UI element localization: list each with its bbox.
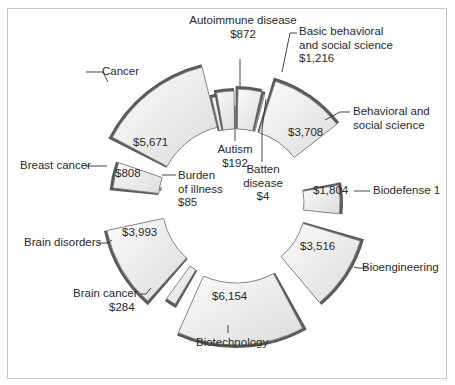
label-batten-line1: Batten (240, 163, 286, 177)
value-biotechnology: $6,154 (212, 290, 247, 302)
segment-behavioral (257, 78, 339, 158)
value-biodefense: $1,804 (313, 184, 348, 196)
label-breast-cancer: Breast cancer (20, 159, 91, 173)
segment-bioengineering (281, 222, 364, 305)
label-biodefense: Biodefense 1 (373, 184, 440, 198)
label-autoimmune-text: Autoimmune disease (188, 14, 298, 28)
label-basic-behavioral-line2: and social science (299, 39, 393, 53)
label-brain-cancer-text: Brain cancer (73, 287, 138, 301)
value-basic-behavioral: $1,216 (299, 52, 393, 66)
label-autoimmune: Autoimmune disease $872 (188, 14, 298, 41)
segment-cancer (108, 64, 217, 168)
label-cancer: Cancer (102, 65, 139, 79)
label-batten-line2: disease (240, 177, 286, 191)
label-behavioral-line1: Behavioral and (353, 105, 430, 119)
value-behavioral: $3,708 (288, 126, 323, 138)
value-brain-cancer: $284 (73, 301, 138, 315)
value-cancer: $5,671 (133, 136, 168, 148)
label-brain-disorders: Brain disorders (24, 236, 101, 250)
label-autism-text: Autism (212, 143, 258, 157)
label-brain-cancer: Brain cancer $284 (73, 287, 138, 314)
value-bioengineering: $3,516 (300, 240, 335, 252)
value-burden: $85 (178, 196, 223, 210)
label-behavioral-line2: social science (353, 119, 430, 133)
label-burden: Burden of illness $85 (178, 169, 223, 210)
label-behavioral: Behavioral and social science (353, 105, 430, 132)
label-burden-line2: of illness (178, 183, 223, 197)
label-bioengineering: Bioengineering (362, 261, 439, 275)
label-basic-behavioral-line1: Basic behavioral (299, 25, 393, 39)
label-biotechnology: Biotechnology (196, 336, 268, 350)
label-basic-behavioral: Basic behavioral and social science $1,2… (299, 25, 393, 66)
label-burden-line1: Burden (178, 169, 223, 183)
label-batten: Batten disease $4 (240, 163, 286, 204)
value-brain-disorders: $3,993 (122, 226, 157, 238)
segments-group (104, 64, 364, 348)
value-autoimmune: $872 (188, 28, 298, 42)
value-breast-cancer: $808 (115, 167, 141, 179)
value-batten: $4 (240, 190, 286, 204)
